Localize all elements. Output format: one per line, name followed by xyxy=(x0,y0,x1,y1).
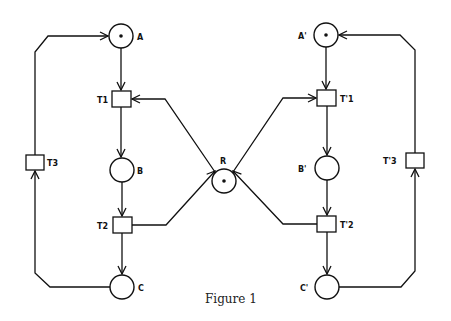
place-label: B' xyxy=(298,165,307,174)
transition-t-prime-3: T'3 xyxy=(383,153,424,168)
transition-t3: T3 xyxy=(26,155,58,170)
transition-label: T'2 xyxy=(340,221,353,230)
token xyxy=(324,33,328,37)
place-label: C xyxy=(138,284,144,293)
transition-label: T'3 xyxy=(383,157,396,166)
transition-t2: T2 xyxy=(97,217,132,233)
place-c: C xyxy=(110,275,144,299)
transition-label: T3 xyxy=(47,159,58,168)
arc-t2-r xyxy=(132,171,215,225)
place-a: A xyxy=(109,24,144,48)
place-label: B xyxy=(137,167,143,176)
arc-r-t21 xyxy=(233,98,316,172)
place-label: A xyxy=(137,33,144,42)
place-b: B xyxy=(110,158,143,182)
place-c-prime: C' xyxy=(300,275,339,299)
transition-label: T'1 xyxy=(340,95,354,104)
token xyxy=(119,34,123,38)
place-a-prime: A' xyxy=(298,23,338,47)
place-label: R xyxy=(220,157,226,166)
transition-t-prime-1: T'1 xyxy=(317,90,354,106)
figure-caption: Figure 1 xyxy=(205,292,257,306)
petri-net-diagram: A B C R A' B' C' T1 T2 T3 T'1 xyxy=(0,0,451,321)
place-label: A' xyxy=(298,32,307,41)
token xyxy=(222,179,226,183)
transition-label: T1 xyxy=(97,96,108,105)
arc-t23-a2 xyxy=(339,35,415,153)
arc-r-t1 xyxy=(132,99,215,172)
place-label: C' xyxy=(300,284,308,293)
place-r: R xyxy=(212,157,236,193)
transition-label: T2 xyxy=(97,222,108,231)
place-b-prime: B' xyxy=(298,156,339,180)
transition-t1: T1 xyxy=(97,91,131,107)
transition-t-prime-2: T'2 xyxy=(317,216,353,232)
arc-t22-r xyxy=(233,171,317,224)
